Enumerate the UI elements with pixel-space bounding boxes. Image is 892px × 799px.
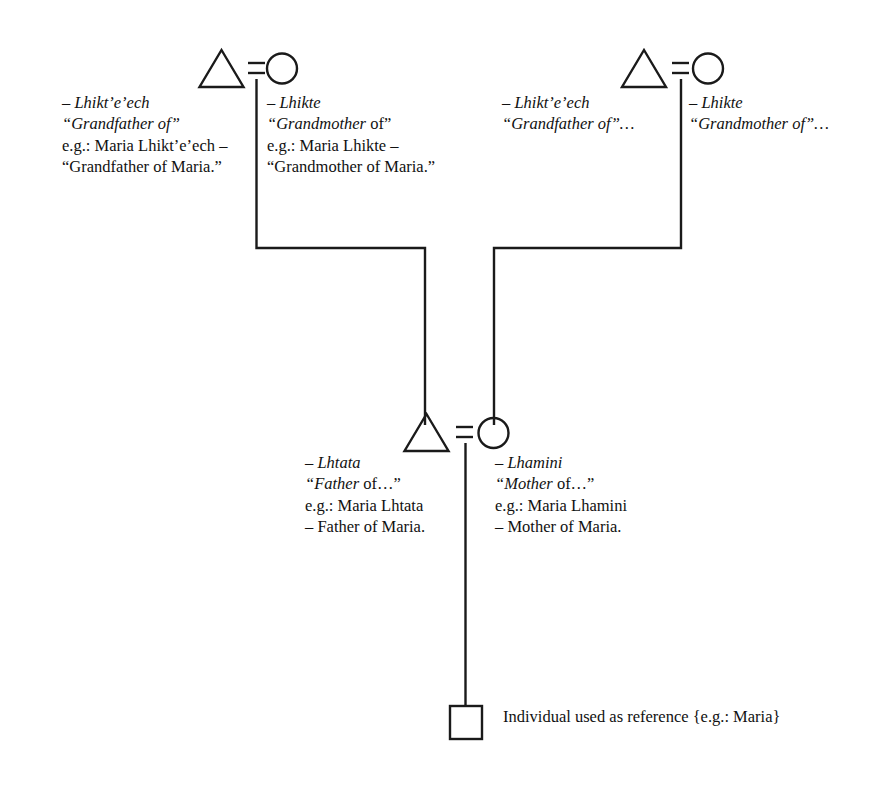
reference-individual-square [450,706,482,739]
grandmother-left-example-2: “Grandmother of Maria.” [267,156,435,177]
grandmother-right-gloss-rest: of”… [788,114,829,133]
grandmother-left-gloss-italic: “Grandmother [267,114,366,133]
reference-legend-line-2: {e.g.: Maria} [693,707,781,726]
grandfather-left-example-1: e.g.: Maria Lhikt’e’ech – [62,135,227,156]
grandfather-right-gloss-rest: of”… [594,114,635,133]
grandmother-left-example-1: e.g.: Maria Lhikte – [267,135,435,156]
kinship-diagram-page: – Lhikt’e’ech “Grandfather of” e.g.: Mar… [0,0,892,799]
grandfather-right-gloss-italic: “Grandfather [502,114,594,133]
father-example-2: – Father of Maria. [305,516,425,537]
grandfather-left-example-2: “Grandfather of Maria.” [62,156,227,177]
grandmother-right-gloss-italic: “Grandmother [689,114,788,133]
grandmother-right-label: – Lhikte “Grandmother of”… [689,92,829,135]
grandfather-left-term: – Lhikt’e’ech [62,92,227,113]
grandmother-right-circle [693,54,723,84]
grandfather-right-label: – Lhikt’e’ech “Grandfather of”… [502,92,635,135]
grandfather-right-term: – Lhikt’e’ech [502,92,635,113]
grandfather-right-gloss: “Grandfather of”… [502,113,635,134]
grandfather-left-gloss: “Grandfather of” [62,113,227,134]
father-triangle [405,414,449,451]
mother-example-1: e.g.: Maria Lhamini [495,495,627,516]
father-gloss: “Father of…” [305,473,425,494]
mother-gloss-italic: “Mother [495,474,553,493]
mother-gloss-rest: of…” [553,474,595,493]
grandmother-left-circle [267,54,297,84]
mother-gloss: “Mother of…” [495,473,627,494]
grandmother-right-term: – Lhikte [689,92,829,113]
grandmother-left-gloss: “Grandmother of” [267,113,435,134]
grandfather-left-label: – Lhikt’e’ech “Grandfather of” e.g.: Mar… [62,92,227,178]
mother-example-2: – Mother of Maria. [495,516,627,537]
grandfather-right-triangle [622,50,666,87]
grandmother-left-label: – Lhikte “Grandmother of” e.g.: Maria Lh… [267,92,435,178]
father-example-1: e.g.: Maria Lhtata [305,495,425,516]
grandmother-left-term: – Lhikte [267,92,435,113]
grandmother-left-gloss-rest: of” [366,114,391,133]
father-label: – Lhtata “Father of…” e.g.: Maria Lhtata… [305,452,425,538]
reference-legend-line-1: Individual used as reference [503,707,689,726]
grandmother-right-gloss: “Grandmother of”… [689,113,829,134]
mother-label: – Lhamini “Mother of…” e.g.: Maria Lhami… [495,452,627,538]
father-term: – Lhtata [305,452,425,473]
grandfather-left-triangle [200,50,244,87]
father-gloss-italic: “Father [305,474,359,493]
mother-term: – Lhamini [495,452,627,473]
father-gloss-rest: of…” [359,474,401,493]
reference-individual-legend: Individual used as reference {e.g.: Mari… [503,705,780,728]
